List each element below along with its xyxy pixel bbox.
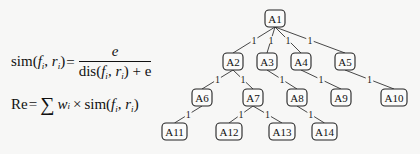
tree-node-a2: A2 [223, 53, 243, 70]
edge-weight-label: 1 [252, 35, 257, 46]
edge-weight-label: 1 [367, 74, 372, 85]
tree-node-a6: A6 [192, 89, 212, 106]
node-label: A14 [315, 126, 334, 138]
node-label: A6 [195, 92, 209, 104]
node-label: A4 [294, 56, 308, 68]
edge-weight-label: 1 [319, 74, 324, 85]
tree-node-a5: A5 [335, 53, 355, 70]
node-label: A2 [226, 56, 239, 68]
node-label: A5 [338, 56, 352, 68]
hierarchy-tree: 1111111111111A1A2A3A4A5A6A7A8A9A10A11A12… [0, 0, 420, 154]
edge-weight-label: 1 [241, 74, 246, 85]
tree-edge: 1 [275, 27, 301, 53]
tree-edge: 1 [229, 106, 253, 123]
tree-edge: 1 [345, 70, 394, 89]
tree-edge: 1 [297, 106, 325, 123]
node-label: A10 [385, 92, 404, 104]
edge-weight-label: 1 [265, 109, 270, 120]
tree-node-a14: A14 [312, 123, 337, 140]
node-label: A12 [220, 126, 239, 138]
tree-edge: 1 [301, 70, 341, 89]
tree-node-a12: A12 [216, 123, 242, 140]
tree-node-a11: A11 [162, 123, 187, 140]
tree-edge: 1 [175, 106, 203, 123]
edge-weight-label: 1 [286, 35, 291, 46]
node-label: A1 [268, 13, 281, 25]
edge-weight-label: 1 [215, 74, 220, 85]
edge-weight-label: 1 [186, 109, 191, 120]
node-label: A13 [273, 126, 292, 138]
tree-node-a10: A10 [381, 89, 407, 106]
tree-edge: 1 [233, 70, 253, 89]
tree-node-a4: A4 [291, 53, 311, 70]
tree-node-a8: A8 [287, 89, 307, 106]
tree-node-a3: A3 [257, 53, 277, 70]
node-label: A3 [260, 56, 274, 68]
edge-weight-label: 1 [308, 35, 313, 46]
tree-edge: 1 [253, 106, 282, 123]
tree-edge: 1 [267, 70, 297, 89]
node-label: A11 [165, 126, 184, 138]
tree-edge: 1 [202, 70, 233, 89]
tree-node-a1: A1 [265, 10, 285, 27]
tree-node-a7: A7 [243, 89, 263, 106]
edges: 1111111111111 [175, 27, 395, 123]
tree-node-a9: A9 [331, 89, 351, 106]
node-label: A8 [290, 92, 304, 104]
node-label: A7 [246, 92, 260, 104]
edge-weight-label: 1 [308, 109, 313, 120]
edge-weight-label: 1 [239, 109, 244, 120]
edge-weight-label: 1 [269, 35, 274, 46]
edge-weight-label: 1 [280, 74, 285, 85]
node-label: A9 [334, 92, 348, 104]
tree-node-a13: A13 [269, 123, 295, 140]
